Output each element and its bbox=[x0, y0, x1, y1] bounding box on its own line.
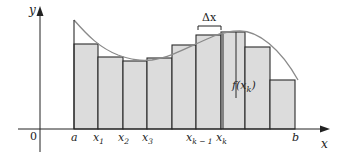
x-tick-labels: ax1x2x3xk − 1xkb bbox=[71, 131, 299, 146]
riemann-rectangles bbox=[74, 32, 295, 129]
f-xk-label: f(xk) bbox=[231, 79, 256, 94]
tick-label-x-1: x1 bbox=[93, 131, 104, 146]
riemann-rectangle-2 bbox=[98, 57, 123, 129]
tick-label-x-k: xk bbox=[216, 131, 227, 146]
riemann-sum-diagram: y x 0 ax1x2x3xk − 1xkb Δx f(xk) bbox=[0, 0, 339, 158]
origin-label: 0 bbox=[30, 130, 37, 143]
tick-label-x-2: x2 bbox=[118, 131, 129, 146]
riemann-rectangle-1 bbox=[74, 44, 98, 129]
riemann-rectangle-6 bbox=[196, 35, 221, 129]
riemann-rectangle-9 bbox=[270, 80, 295, 129]
x-axis-arrow-icon bbox=[320, 126, 330, 133]
riemann-rectangle-4 bbox=[147, 58, 172, 129]
tick-label-x-k-1: xk − 1 bbox=[186, 131, 213, 146]
tick-label-b: b bbox=[292, 131, 299, 144]
tick-label-x-3: x3 bbox=[142, 131, 153, 146]
y-axis-label: y bbox=[28, 3, 36, 17]
delta-x-label: Δx bbox=[202, 11, 217, 24]
riemann-rectangle-3 bbox=[123, 61, 147, 129]
riemann-rectangle-5 bbox=[172, 45, 196, 129]
y-axis-arrow-icon bbox=[37, 6, 44, 16]
x-axis-label: x bbox=[321, 137, 328, 151]
delta-x-brace bbox=[198, 26, 221, 30]
tick-label-a: a bbox=[71, 131, 78, 144]
